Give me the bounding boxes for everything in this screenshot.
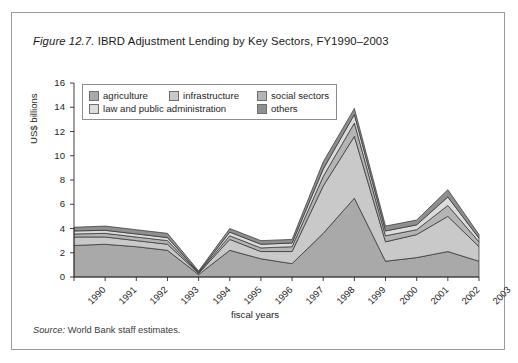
- y-tick-label: 8: [47, 174, 65, 185]
- legend-item-agriculture: agriculture: [89, 90, 169, 101]
- chart-legend: agriculture infrastructure social sector…: [82, 84, 337, 120]
- legend-row: agriculture infrastructure social sector…: [89, 89, 329, 102]
- source-label: Source:: [33, 325, 65, 335]
- y-tick-label: 0: [47, 271, 65, 282]
- legend-item-others: others: [257, 103, 298, 114]
- y-tick-label: 6: [47, 198, 65, 209]
- legend-label: social sectors: [271, 90, 329, 101]
- legend-item-social-sectors: social sectors: [257, 90, 329, 101]
- figure-card: Figure 12.7. IBRD Adjustment Lending by …: [11, 12, 505, 350]
- legend-item-infrastructure: infrastructure: [169, 90, 257, 101]
- chart-plot-area: 1614121086420199019911992199319941995199…: [12, 13, 506, 351]
- source-note: Source: World Bank staff estimates.: [33, 325, 180, 335]
- x-axis-title: fiscal years: [231, 309, 279, 320]
- y-tick-label: 16: [47, 77, 65, 88]
- legend-swatch-icon: [89, 91, 99, 101]
- legend-row: law and public administration others: [89, 102, 329, 115]
- source-text: World Bank staff estimates.: [65, 325, 180, 335]
- legend-label: infrastructure: [183, 90, 239, 101]
- legend-label: agriculture: [103, 90, 148, 101]
- y-tick-label: 10: [47, 150, 65, 161]
- legend-swatch-icon: [169, 91, 179, 101]
- legend-swatch-icon: [257, 104, 267, 114]
- legend-swatch-icon: [257, 91, 267, 101]
- y-axis-title: US$ billions: [28, 93, 39, 144]
- y-tick-label: 14: [47, 101, 65, 112]
- y-tick-label: 12: [47, 126, 65, 137]
- legend-label: others: [271, 103, 298, 114]
- legend-label: law and public administration: [103, 103, 226, 114]
- y-tick-label: 4: [47, 223, 65, 234]
- legend-item-law-and-public-administration: law and public administration: [89, 103, 257, 114]
- legend-swatch-icon: [89, 104, 99, 114]
- y-tick-label: 2: [47, 247, 65, 258]
